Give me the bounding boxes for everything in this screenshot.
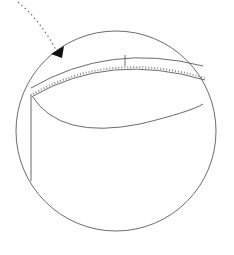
sphere-outline [16, 31, 216, 231]
dotted-arrow-path [18, 2, 56, 50]
cap-plane-front [32, 96, 203, 128]
arrow-head-icon [51, 46, 64, 58]
sphere-diagram [0, 0, 234, 255]
dotted-rim-ticks [33, 67, 205, 94]
dotted-rim [33, 69, 205, 96]
